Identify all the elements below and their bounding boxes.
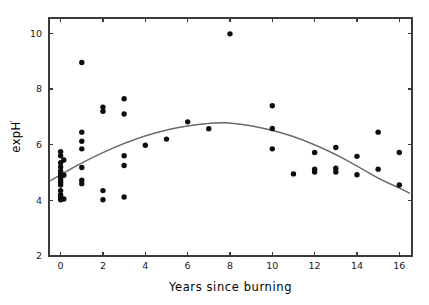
data-point [121,96,126,101]
data-point [312,169,317,174]
y-tick-label: 10 [30,28,42,39]
data-point [291,171,296,176]
x-tick-label: 6 [185,260,191,271]
chart-figure: 0246810121416246810Years since burningex… [0,0,429,305]
data-point [61,157,66,162]
x-tick-label: 8 [227,260,233,271]
data-point [354,154,359,159]
data-point [312,150,317,155]
data-points [58,31,402,202]
data-point [270,126,275,131]
x-axis-title: Years since burning [168,280,292,294]
x-tick-label: 0 [58,260,64,271]
data-point [79,181,84,186]
data-point [61,196,66,201]
y-tick-label: 8 [36,83,42,94]
scatter-plot: 0246810121416246810Years since burningex… [0,0,429,305]
plot-axes [49,18,412,256]
y-tick-label: 2 [36,250,42,261]
data-point [227,31,232,36]
y-axis-title-text: expH [9,121,23,152]
x-tick-label: 10 [266,260,278,271]
data-point [100,188,105,193]
x-tick-label: 16 [393,260,405,271]
data-point [79,146,84,151]
data-point [61,173,66,178]
data-point [333,169,338,174]
data-point [121,194,126,199]
data-point [206,126,211,131]
data-point [100,197,105,202]
data-point [100,109,105,114]
x-tick-label: 12 [309,260,321,271]
data-point [397,150,402,155]
data-point [333,145,338,150]
data-point [375,129,380,134]
data-point [79,129,84,134]
data-point [270,103,275,108]
data-point [121,163,126,168]
axis-labels: 0246810121416246810Years since burningex… [9,28,405,294]
x-tick-label: 2 [100,260,106,271]
data-point [270,146,275,151]
x-tick-label: 4 [142,260,148,271]
data-point [143,143,148,148]
data-point [121,111,126,116]
plot-frame [49,18,412,256]
data-point [185,119,190,124]
data-point [164,136,169,141]
data-point [397,182,402,187]
x-tick-label: 14 [351,260,363,271]
data-point [121,153,126,158]
y-axis-title: expH' [9,120,23,152]
y-axis-title-superscript: ' [9,120,17,122]
y-tick-label: 6 [36,139,42,150]
y-tick-label: 4 [36,195,42,206]
data-point [79,139,84,144]
data-point [79,165,84,170]
data-point [375,166,380,171]
data-point [354,172,359,177]
data-point [58,182,63,187]
data-point [79,60,84,65]
